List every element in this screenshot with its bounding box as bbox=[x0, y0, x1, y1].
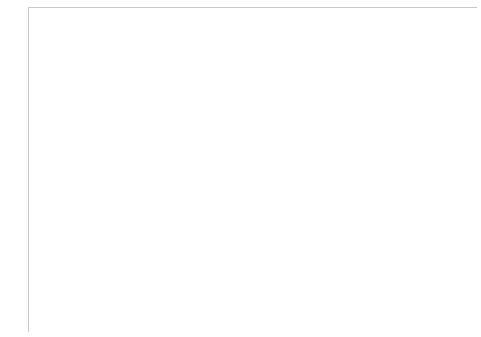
figure-canvas bbox=[0, 0, 481, 337]
figure-frame bbox=[28, 7, 477, 332]
